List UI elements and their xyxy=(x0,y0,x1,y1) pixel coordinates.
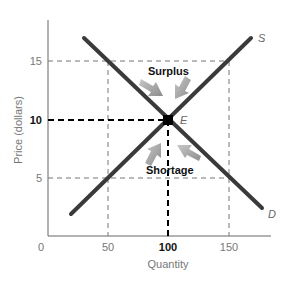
y-tick-10: 10 xyxy=(30,114,42,126)
supply-label: S xyxy=(258,32,266,44)
x-axis-label: Quantity xyxy=(148,258,189,270)
demand-label: D xyxy=(268,208,276,220)
x-tick-150: 150 xyxy=(220,241,238,253)
shortage-arrows xyxy=(145,143,201,166)
x-tick-100: 100 xyxy=(159,241,177,253)
y-tick-5: 5 xyxy=(36,172,42,184)
surplus-label: Surplus xyxy=(148,65,189,77)
shortage-arrow-left-icon xyxy=(145,143,161,166)
surplus-arrow-right-icon xyxy=(175,76,191,99)
y-axis-label: Price (dollars) xyxy=(12,96,24,164)
x-tick-0: 0 xyxy=(38,241,44,253)
supply-demand-chart: Surplus Shortage E S D 15 10 5 0 50 100 … xyxy=(0,0,293,284)
y-tick-15: 15 xyxy=(30,55,42,67)
equilibrium-point xyxy=(163,115,173,125)
equilibrium-label: E xyxy=(180,114,188,126)
shortage-label: Shortage xyxy=(146,164,194,176)
x-tick-50: 50 xyxy=(102,241,114,253)
